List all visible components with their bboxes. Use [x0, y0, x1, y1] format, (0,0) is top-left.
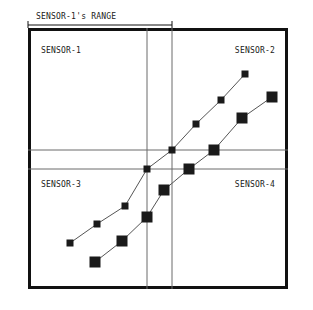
- data-point-marker: [242, 71, 249, 78]
- plot-frame: [30, 30, 287, 288]
- data-point-marker: [193, 121, 200, 128]
- data-point-marker: [169, 147, 176, 154]
- data-point-marker: [94, 221, 101, 228]
- quadrant-label-sensor-2: SENSOR-2: [235, 46, 275, 55]
- data-point-marker: [209, 145, 220, 156]
- data-point-marker: [237, 113, 248, 124]
- data-point-marker: [159, 185, 170, 196]
- data-point-marker: [67, 240, 74, 247]
- quadrant-label-sensor-4: SENSOR-4: [235, 180, 275, 189]
- quadrant-label-sensor-3: SENSOR-3: [41, 180, 81, 189]
- data-point-marker: [184, 164, 195, 175]
- range-annotation-label: SENSOR-1's RANGE: [36, 12, 116, 21]
- data-point-marker: [218, 97, 225, 104]
- data-point-marker: [142, 212, 153, 223]
- quadrant-label-sensor-1: SENSOR-1: [41, 46, 81, 55]
- data-point-marker: [144, 166, 151, 173]
- data-point-marker: [122, 203, 129, 210]
- diagram-canvas: SENSOR-1's RANGE SENSOR-1SENSOR-2SENSOR-…: [0, 0, 313, 310]
- data-point-marker: [117, 236, 128, 247]
- data-point-marker: [267, 92, 278, 103]
- sensor-range-diagram: SENSOR-1's RANGE SENSOR-1SENSOR-2SENSOR-…: [0, 0, 313, 310]
- data-point-marker: [90, 257, 101, 268]
